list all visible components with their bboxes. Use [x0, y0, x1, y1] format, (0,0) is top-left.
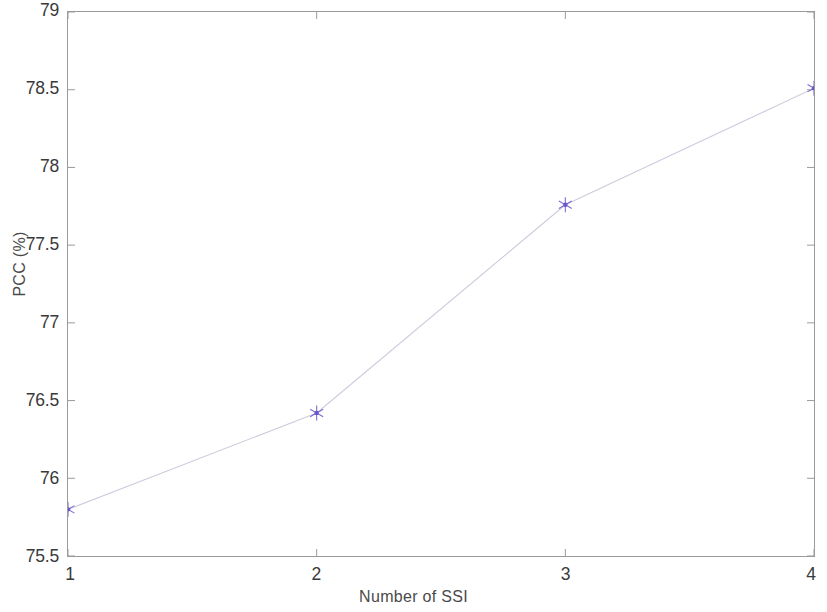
x-tick-label: 2	[311, 566, 321, 584]
data-point-marker	[808, 81, 814, 96]
x-axis-title: Number of SSI	[0, 588, 827, 606]
chart-plot-svg	[68, 12, 814, 556]
y-tick-label: 76.5	[26, 392, 59, 410]
y-tick-label: 78.5	[26, 80, 59, 98]
data-point-markers	[68, 81, 814, 517]
data-point-marker	[310, 406, 323, 421]
y-tick-label: 75.5	[26, 548, 59, 566]
data-point-marker	[68, 502, 74, 517]
x-tick-label: 3	[561, 566, 571, 584]
y-tick-label: 78	[40, 158, 59, 176]
x-tick-label: 4	[806, 566, 816, 584]
y-tick-label: 79	[40, 2, 59, 20]
figure-canvas: 75.57676.57777.57878.579 1234 Number of …	[0, 0, 827, 612]
data-point-marker	[559, 197, 572, 212]
x-tick-label: 1	[65, 566, 75, 584]
y-axis-title-wrapper: PCC (%)	[8, 184, 32, 344]
data-series-line	[68, 88, 814, 509]
plot-area	[67, 11, 815, 557]
y-tick-label: 77	[40, 314, 59, 332]
y-axis-title: PCC (%)	[11, 231, 29, 296]
axis-tick-marks	[68, 12, 814, 556]
y-tick-label: 76	[40, 470, 59, 488]
